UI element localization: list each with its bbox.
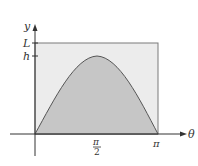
y-axis-arrow-icon <box>33 24 38 31</box>
x-axis-label: θ <box>188 128 195 141</box>
tick-label-pi-over-2-numerator: π <box>92 137 100 147</box>
tick-label-pi: π <box>152 138 160 149</box>
diagram-canvas: y L h θ π 2 π <box>0 0 198 166</box>
tick-label-pi-over-2-denominator: 2 <box>94 147 100 157</box>
tick-label-h: h <box>23 50 30 63</box>
x-axis-arrow-icon <box>180 132 187 137</box>
y-axis-label: y <box>23 20 31 33</box>
tick-label-L: L <box>22 37 30 50</box>
